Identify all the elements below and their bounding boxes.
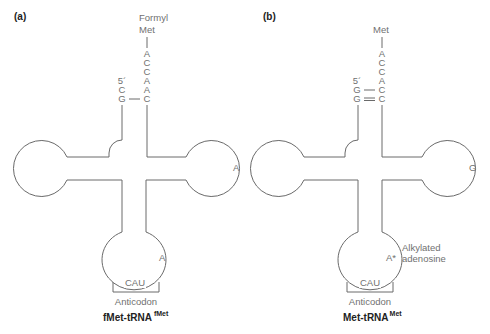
anticodon-sequence: CAU xyxy=(360,277,380,288)
trna-title: Met-tRNAMet xyxy=(343,310,402,323)
base: C xyxy=(144,93,151,104)
acceptor-5prime-strand: 5´ C G xyxy=(118,75,126,104)
trna-title-superscript: fMet xyxy=(154,310,169,317)
amino-acid-label-line1: Formyl xyxy=(139,12,168,23)
anticodon-label: Anticodon xyxy=(115,296,157,307)
amino-acid-label-line2: Met xyxy=(139,24,155,35)
trna-title: fMet-tRNAfMet xyxy=(103,310,169,323)
panel-b-met-trna: (b) Met A C C A C C 5´ G G G A* Alkylate… xyxy=(250,11,476,323)
panel-label: (a) xyxy=(14,11,26,22)
anticodon-loop-base: A xyxy=(159,252,166,263)
trna-title-main: Met-tRNA xyxy=(343,312,389,323)
base: G xyxy=(353,93,360,104)
base: G xyxy=(118,93,125,104)
trna-cloverleaf-outline xyxy=(13,105,239,290)
acceptor-3prime-strand: A C C A A C xyxy=(144,48,151,104)
t-loop-base: G xyxy=(469,162,476,173)
amino-acid-label: Met xyxy=(373,24,389,35)
annotation-line1: Alkylated xyxy=(402,242,441,253)
acceptor-5prime-strand: 5´ G G xyxy=(353,75,361,104)
acceptor-3prime-strand: A C C A C C xyxy=(379,48,386,104)
trna-title-main: fMet-tRNA xyxy=(103,312,152,323)
anticodon-label: Anticodon xyxy=(349,296,391,307)
base: C xyxy=(379,93,386,104)
annotation-line2: adenosine xyxy=(402,253,446,264)
panel-a-fmet-trna: (a) Formyl Met A C C A A C 5´ C G A A CA… xyxy=(13,11,240,323)
anticodon-sequence: CAU xyxy=(125,277,145,288)
trna-comparison-diagram: (a) Formyl Met A C C A A C 5´ C G A A CA… xyxy=(0,0,490,334)
trna-title-superscript: Met xyxy=(390,310,403,317)
t-loop-base: A xyxy=(233,162,240,173)
panel-label: (b) xyxy=(263,11,276,22)
anticodon-loop-base: A* xyxy=(386,252,396,263)
